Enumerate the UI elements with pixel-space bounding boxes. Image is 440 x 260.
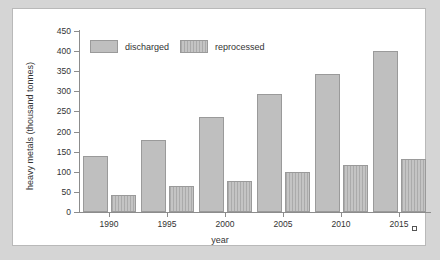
x-tick-label-2000: 2000: [216, 219, 235, 229]
legend-label-reprocessed: reprocessed: [215, 42, 265, 52]
x-tick-label-2005: 2005: [274, 219, 293, 229]
bar-reprocessed-2000: [227, 181, 252, 212]
y-tick-50: [74, 192, 79, 193]
x-tick-1990: [109, 213, 110, 217]
legend-swatch-reprocessed: [180, 40, 208, 53]
y-tick-label-350: 350: [57, 66, 71, 76]
y-tick-label-150: 150: [57, 147, 71, 157]
bar-reprocessed-2015: [401, 159, 426, 212]
x-tick-2015: [399, 213, 400, 217]
bar-reprocessed-1995: [169, 186, 194, 212]
chart-screenshot: 050100150200250300350400450 199019952000…: [0, 0, 440, 260]
y-tick-250: [74, 111, 79, 112]
y-tick-label-50: 50: [62, 187, 71, 197]
y-tick-label-0: 0: [66, 207, 71, 217]
x-tick-label-1995: 1995: [158, 219, 177, 229]
y-tick-300: [74, 91, 79, 92]
x-axis-title: year: [13, 235, 427, 245]
y-tick-150: [74, 152, 79, 153]
y-tick-label-450: 450: [57, 26, 71, 36]
y-tick-200: [74, 132, 79, 133]
legend-entry-reprocessed: reprocessed: [180, 40, 265, 53]
x-tick-label-2015: 2015: [390, 219, 409, 229]
bar-discharged-1995: [141, 140, 166, 212]
y-tick-label-300: 300: [57, 86, 71, 96]
y-tick-label-250: 250: [57, 106, 71, 116]
y-tick-label-200: 200: [57, 127, 71, 137]
x-tick-2005: [283, 213, 284, 217]
legend-label-discharged: discharged: [125, 42, 169, 52]
y-tick-label-100: 100: [57, 167, 71, 177]
bar-reprocessed-2005: [285, 172, 310, 212]
bar-discharged-2015: [373, 51, 398, 212]
x-tick-label-1990: 1990: [100, 219, 119, 229]
x-axis-line: [79, 212, 431, 213]
corner-artifact: [412, 226, 417, 231]
bar-reprocessed-2010: [343, 165, 368, 212]
y-tick-400: [74, 51, 79, 52]
plot-area: [80, 31, 428, 212]
bar-discharged-2010: [315, 74, 340, 212]
y-tick-100: [74, 172, 79, 173]
bar-discharged-1990: [83, 156, 108, 212]
legend-swatch-discharged: [90, 40, 118, 53]
y-tick-450: [74, 31, 79, 32]
y-tick-0: [74, 212, 79, 213]
y-axis-title: heavy metals (thousand tonnes): [25, 46, 35, 206]
x-tick-1995: [167, 213, 168, 217]
y-tick-label-400: 400: [57, 46, 71, 56]
x-tick-label-2010: 2010: [332, 219, 351, 229]
y-tick-350: [74, 71, 79, 72]
x-tick-2000: [225, 213, 226, 217]
chart-panel: 050100150200250300350400450 199019952000…: [12, 8, 426, 246]
bar-reprocessed-1990: [111, 195, 136, 212]
bar-discharged-2000: [199, 117, 224, 212]
x-tick-2010: [341, 213, 342, 217]
bar-discharged-2005: [257, 94, 282, 212]
chart-legend: dischargedreprocessed: [90, 40, 265, 53]
legend-entry-discharged: discharged: [90, 40, 169, 53]
